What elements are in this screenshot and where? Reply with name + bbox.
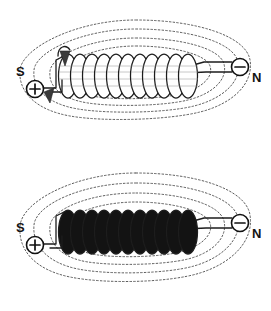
panel-iron-core-solenoid: S N [0, 156, 271, 311]
coil-turn [179, 54, 199, 98]
iron-core-diagram: S N [0, 156, 271, 311]
air-core-diagram: S N [0, 0, 271, 155]
negative-terminal [232, 215, 249, 232]
coil-turn [179, 210, 198, 254]
figure-sheet: S N [0, 0, 271, 311]
south-pole-label: S [16, 220, 25, 235]
south-pole-label: S [16, 64, 25, 79]
coil-windings [59, 210, 198, 254]
positive-terminal [27, 237, 44, 254]
negative-terminal [232, 59, 249, 76]
panel-air-core-solenoid: S N [0, 0, 271, 155]
positive-terminal [27, 81, 44, 98]
coil-windings [59, 54, 199, 98]
north-pole-label: N [252, 226, 261, 241]
north-pole-label: N [252, 70, 261, 85]
